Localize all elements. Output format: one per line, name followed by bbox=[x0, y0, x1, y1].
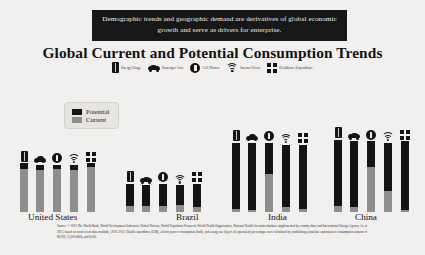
bar-segment-current bbox=[176, 205, 184, 212]
legend-row-potential: Potential bbox=[72, 108, 109, 115]
page-title: Global Current and Potential Consumption… bbox=[0, 44, 425, 62]
bar-icon-cap bbox=[382, 129, 394, 141]
bar-segment-current bbox=[87, 167, 95, 212]
stacked-bar bbox=[70, 165, 78, 212]
category-label-india: India bbox=[268, 212, 287, 222]
healthcare-expenditure-icon bbox=[298, 133, 308, 143]
bar-icon-cap bbox=[280, 131, 292, 143]
bar-segment-potential bbox=[282, 145, 290, 208]
bar-icon-cap bbox=[68, 151, 80, 163]
bar-united-states-healthcare-expenditure bbox=[86, 120, 96, 212]
bar-china-internet-users bbox=[382, 120, 394, 212]
stacked-bar bbox=[350, 141, 358, 212]
infographic-canvas: Demographic trends and geographic demand… bbox=[0, 0, 425, 255]
bar-united-states-energy-usage bbox=[20, 120, 28, 212]
bar-group-united-states bbox=[20, 120, 96, 212]
energy-usage-icon bbox=[127, 171, 134, 182]
cell-phone-icon bbox=[264, 131, 274, 141]
internet-users-icon bbox=[382, 132, 394, 141]
bar-icon-cap bbox=[127, 170, 134, 182]
stacked-bar bbox=[232, 143, 240, 212]
bar-segment-current bbox=[20, 169, 28, 212]
internet-users-icon bbox=[68, 154, 80, 163]
energy-usage-icon bbox=[21, 151, 28, 162]
bar-united-states-cell-phones bbox=[52, 120, 62, 212]
stacked-bar bbox=[384, 143, 392, 212]
bar-icon-cap bbox=[246, 129, 258, 141]
healthcare-expenditure-icon bbox=[86, 152, 96, 162]
passenger-car-icon bbox=[148, 64, 160, 72]
category-axis: United States Brazil India China bbox=[0, 212, 425, 224]
icon-legend-item-energy: Energy Usage bbox=[112, 62, 141, 73]
energy-usage-icon bbox=[233, 130, 240, 141]
icon-legend: Energy Usage Passenger Cars Cell Phones … bbox=[0, 62, 425, 73]
bar-segment-potential bbox=[384, 143, 392, 191]
bar-icon-cap bbox=[233, 129, 240, 141]
stacked-bar bbox=[142, 185, 150, 212]
stacked-bar bbox=[36, 165, 44, 212]
bar-segment-potential bbox=[299, 145, 307, 210]
legend-label-potential: Potential bbox=[86, 108, 109, 115]
cell-phone-icon bbox=[52, 153, 62, 163]
stacked-bar bbox=[193, 184, 201, 212]
internet-users-icon bbox=[226, 63, 238, 72]
bar-brazil-passenger-cars bbox=[140, 120, 152, 212]
bar-icon-cap bbox=[400, 128, 410, 140]
bar-brazil-energy-usage bbox=[126, 120, 134, 212]
bar-icon-cap bbox=[192, 170, 202, 182]
bar-segment-potential bbox=[232, 143, 240, 209]
internet-users-icon bbox=[174, 175, 186, 184]
icon-legend-item-car: Passenger Cars bbox=[148, 64, 183, 72]
legend-swatch-potential bbox=[72, 109, 82, 115]
stacked-bar bbox=[265, 143, 273, 212]
bar-india-healthcare-expenditure bbox=[298, 120, 308, 212]
bar-india-energy-usage bbox=[232, 120, 240, 212]
bar-china-healthcare-expenditure bbox=[400, 120, 410, 212]
healthcare-expenditure-icon bbox=[192, 172, 202, 182]
header-banner: Demographic trends and geographic demand… bbox=[92, 10, 347, 41]
energy-usage-icon bbox=[112, 62, 119, 73]
bar-segment-potential bbox=[350, 141, 358, 207]
icon-legend-label: Internet Users bbox=[240, 66, 260, 70]
bar-india-internet-users bbox=[280, 120, 292, 212]
passenger-car-icon bbox=[34, 155, 46, 163]
icon-legend-item-health: Healthcare Expenditure bbox=[267, 63, 312, 73]
healthcare-expenditure-icon bbox=[400, 130, 410, 140]
bar-segment-potential bbox=[193, 184, 201, 207]
bar-china-cell-phones bbox=[366, 120, 376, 212]
stacked-bar bbox=[401, 141, 409, 212]
energy-usage-icon bbox=[335, 127, 342, 138]
bar-icon-cap bbox=[174, 172, 186, 184]
category-label-china: China bbox=[355, 212, 377, 222]
bar-segment-current bbox=[384, 191, 392, 212]
bar-segment-current bbox=[367, 167, 375, 212]
bar-segment-potential bbox=[334, 140, 342, 206]
healthcare-expenditure-icon bbox=[267, 63, 277, 73]
icon-legend-label: Healthcare Expenditure bbox=[279, 66, 312, 70]
stacked-bar bbox=[282, 145, 290, 213]
bar-group-india bbox=[232, 120, 308, 212]
bar-group-china bbox=[334, 120, 410, 212]
bar-segment-current bbox=[36, 170, 44, 212]
stacked-bar bbox=[367, 141, 375, 212]
bar-segment-potential bbox=[367, 141, 375, 166]
bar-india-passenger-cars bbox=[246, 120, 258, 212]
bar-brazil-healthcare-expenditure bbox=[192, 120, 202, 212]
bar-segment-potential bbox=[142, 185, 150, 205]
passenger-car-icon bbox=[348, 132, 360, 140]
stacked-bar bbox=[126, 184, 134, 212]
bar-china-energy-usage bbox=[334, 120, 342, 212]
bar-segment-current bbox=[53, 169, 61, 212]
bar-segment-potential bbox=[265, 143, 273, 174]
icon-legend-item-internet: Internet Users bbox=[226, 63, 260, 72]
bar-icon-cap bbox=[158, 170, 168, 182]
stacked-bar bbox=[53, 165, 61, 212]
bar-segment-potential bbox=[159, 184, 167, 207]
stacked-bar bbox=[159, 184, 167, 212]
stacked-bar bbox=[299, 145, 307, 213]
chart-plot-area bbox=[0, 120, 425, 212]
bar-icon-cap bbox=[86, 150, 96, 162]
bar-united-states-passenger-cars bbox=[34, 120, 46, 212]
category-label-united-states: United States bbox=[28, 212, 77, 222]
bar-icon-cap bbox=[348, 128, 360, 140]
